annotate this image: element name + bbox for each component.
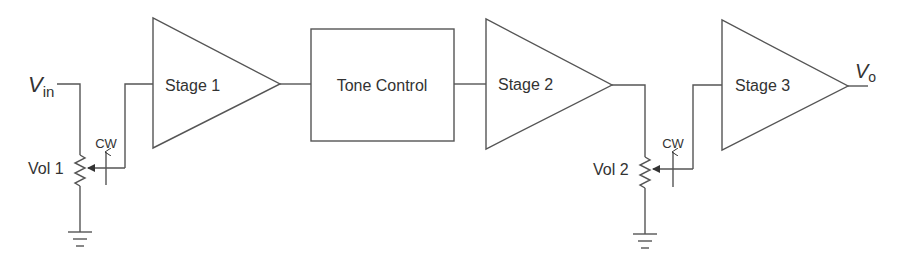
- tone-control-block: Tone Control: [311, 29, 454, 141]
- cw-label: CW: [95, 136, 117, 151]
- resistor-zigzag-icon: [640, 157, 650, 188]
- stage3-label: Stage 3: [735, 77, 790, 94]
- output-terminal: Vo: [848, 60, 876, 86]
- stage1-amplifier: Stage 1: [153, 18, 280, 148]
- vol2-label: Vol 2: [593, 161, 629, 178]
- stage2-to-vol2-wire: [612, 85, 645, 157]
- wiper-to-stage1-wire: [125, 84, 153, 168]
- vol1-label: Vol 1: [28, 160, 64, 177]
- wiper-to-stage3-wire: [693, 85, 722, 169]
- input-wire: [57, 84, 80, 155]
- vin-label: Vin: [28, 72, 54, 100]
- stage3-amplifier: Stage 3: [722, 20, 848, 150]
- amplifier-block-diagram: Vin CW Vol 1 Stage 1 Tone Control Stage …: [0, 0, 899, 270]
- stage2-label: Stage 2: [498, 76, 553, 93]
- resistor-zigzag-icon: [75, 155, 85, 186]
- ground-icon: [633, 234, 657, 248]
- input-terminal: Vin: [28, 72, 80, 155]
- cw-label: CW: [662, 136, 684, 151]
- vo-label: Vo: [855, 60, 876, 85]
- potentiometer-vol2: CW Vol 2: [593, 85, 722, 248]
- stage1-label: Stage 1: [165, 77, 220, 94]
- tone-control-label: Tone Control: [337, 77, 428, 94]
- stage2-amplifier: Stage 2: [486, 19, 612, 149]
- potentiometer-vol1: CW Vol 1: [28, 84, 153, 246]
- ground-icon: [68, 232, 92, 246]
